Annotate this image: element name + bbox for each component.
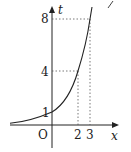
- tick-label-x3: 3: [86, 128, 94, 142]
- tick-label-t8: 8: [41, 12, 49, 26]
- guide-lines: [52, 19, 90, 125]
- tick-label-t4: 4: [41, 65, 49, 79]
- tick-label-x2: 2: [74, 128, 82, 142]
- tick-label-t1: 1: [42, 106, 50, 120]
- x-axis-arrow-icon: [112, 122, 119, 128]
- t-axis-label: t: [58, 3, 63, 17]
- stray-stroke: [108, 1, 113, 8]
- x-axis-label: x: [111, 129, 118, 143]
- t-axis-arrow-icon: [49, 6, 55, 13]
- graph-canvas: t x O 8 4 1 2 3: [0, 0, 131, 152]
- exponential-curve: [10, 7, 92, 123]
- exponential-graph-figure: t x O 8 4 1 2 3: [0, 0, 131, 152]
- origin-label: O: [38, 128, 48, 142]
